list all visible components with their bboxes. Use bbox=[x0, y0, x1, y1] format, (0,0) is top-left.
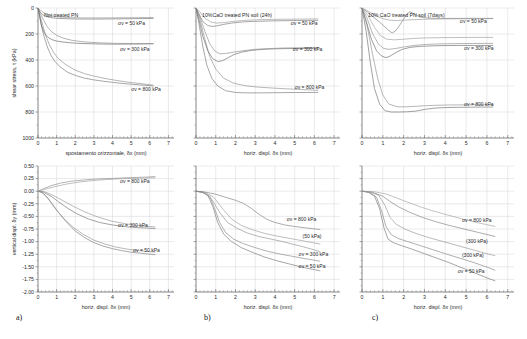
svg-text:2: 2 bbox=[74, 140, 77, 146]
svg-text:-2.00: -2.00 bbox=[22, 289, 34, 295]
curve--v-800-kpa bbox=[362, 191, 495, 236]
y-axis-label: shear stress, τ (kPa) bbox=[11, 48, 17, 97]
svg-text:-0.50: -0.50 bbox=[22, 213, 34, 219]
svg-text:0.50: 0.50 bbox=[24, 163, 34, 169]
panel-c-bottom-chart: 01234567σv = 50 kPa(300 kPa)(300 kPa)σv … bbox=[348, 160, 520, 310]
svg-text:4: 4 bbox=[444, 294, 447, 300]
svg-text:600: 600 bbox=[25, 83, 34, 89]
svg-text:5: 5 bbox=[130, 294, 133, 300]
curve-label: σv = 800 kPa bbox=[131, 86, 161, 92]
panel-c-top-chart: 0123456710% CaO treated PN soil (7days)σ… bbox=[348, 4, 520, 156]
svg-text:1: 1 bbox=[214, 294, 217, 300]
svg-text:4: 4 bbox=[111, 294, 114, 300]
panel-c: 0123456710% CaO treated PN soil (7days)σ… bbox=[348, 4, 520, 156]
svg-text:5: 5 bbox=[293, 140, 296, 146]
svg-text:2: 2 bbox=[74, 294, 77, 300]
svg-text:6: 6 bbox=[313, 140, 316, 146]
svg-text:6: 6 bbox=[485, 140, 488, 146]
svg-text:-1.50: -1.50 bbox=[22, 264, 34, 270]
svg-text:4: 4 bbox=[444, 140, 447, 146]
panel-a-bottom-chart: -2.00-1.75-1.50-1.25-1.00-0.75-0.50-0.25… bbox=[8, 160, 180, 310]
svg-text:6: 6 bbox=[148, 294, 151, 300]
panel-b-top-chart: 0123456710%CaO treated PN soil (24h)σv =… bbox=[182, 4, 346, 156]
panel-a-bottom: -2.00-1.75-1.50-1.25-1.00-0.75-0.50-0.25… bbox=[8, 160, 180, 310]
svg-text:1000: 1000 bbox=[22, 135, 34, 141]
svg-text:3: 3 bbox=[254, 140, 257, 146]
curve-label: σv = 50 kPa bbox=[458, 268, 485, 274]
svg-text:6: 6 bbox=[313, 294, 316, 300]
svg-text:4: 4 bbox=[273, 294, 276, 300]
svg-text:1: 1 bbox=[381, 140, 384, 146]
curve-label: σv = 300 kPa bbox=[118, 222, 148, 228]
svg-text:3: 3 bbox=[254, 294, 257, 300]
svg-text:5: 5 bbox=[465, 294, 468, 300]
svg-text:-0.75: -0.75 bbox=[22, 226, 34, 232]
svg-text:-1.75: -1.75 bbox=[22, 276, 34, 282]
svg-text:1: 1 bbox=[55, 140, 58, 146]
svg-text:5: 5 bbox=[465, 140, 468, 146]
curve--v-50-kpa bbox=[196, 191, 320, 271]
svg-text:3: 3 bbox=[423, 294, 426, 300]
curve-label: σv = 800 kPa bbox=[120, 178, 150, 184]
svg-text:7: 7 bbox=[167, 140, 170, 146]
panel-a-top-chart: 0200400600800100001234567Not treated PNσ… bbox=[8, 4, 180, 156]
svg-text:400: 400 bbox=[25, 57, 34, 63]
curve-label: σv = 800 kPa bbox=[462, 217, 492, 223]
panel-letter-a: a) bbox=[16, 313, 22, 322]
svg-text:0.25: 0.25 bbox=[24, 175, 34, 181]
panel-b: 0123456710%CaO treated PN soil (24h)σv =… bbox=[182, 4, 346, 156]
svg-text:200: 200 bbox=[25, 31, 34, 37]
svg-text:800: 800 bbox=[25, 109, 34, 115]
svg-text:0.00: 0.00 bbox=[24, 188, 34, 194]
svg-text:0: 0 bbox=[361, 140, 364, 146]
svg-text:0: 0 bbox=[37, 294, 40, 300]
svg-text:2: 2 bbox=[402, 140, 405, 146]
svg-text:4: 4 bbox=[273, 140, 276, 146]
svg-text:-1.00: -1.00 bbox=[22, 238, 34, 244]
svg-text:0: 0 bbox=[31, 5, 34, 11]
svg-text:0: 0 bbox=[361, 294, 364, 300]
svg-text:-0.25: -0.25 bbox=[22, 201, 34, 207]
curve-label: σv = 50 kPa bbox=[460, 18, 487, 24]
svg-text:2: 2 bbox=[234, 294, 237, 300]
svg-text:7: 7 bbox=[506, 140, 509, 146]
curve--300-kpa- bbox=[362, 191, 495, 270]
svg-text:6: 6 bbox=[485, 294, 488, 300]
curve-label: (50 kPa) bbox=[303, 233, 322, 239]
figure-root: 0200400600800100001234567Not treated PNσ… bbox=[0, 0, 527, 339]
svg-text:-1.25: -1.25 bbox=[22, 251, 34, 257]
curve-label: σv = 800 kPa bbox=[287, 216, 317, 222]
svg-text:6: 6 bbox=[148, 140, 151, 146]
curve-label: σv = 300 kPa bbox=[299, 251, 329, 257]
x-axis-label: horiz. displ. δx (mm) bbox=[414, 150, 463, 156]
svg-text:1: 1 bbox=[214, 140, 217, 146]
curve-label: σv = 800 kPa bbox=[295, 84, 325, 90]
svg-text:7: 7 bbox=[333, 140, 336, 146]
y-axis-label: vertical displ. δy (mm) bbox=[11, 203, 17, 256]
panel-title: 10% CaO treated PN soil (7days) bbox=[368, 12, 445, 18]
svg-text:2: 2 bbox=[234, 140, 237, 146]
x-axis-label: spostamento orizzontale, δx (mm) bbox=[65, 150, 146, 156]
curve-label: σv = 50 kPa bbox=[299, 263, 326, 269]
curve-label: σv = 300 kPa bbox=[293, 46, 323, 52]
svg-text:1: 1 bbox=[55, 294, 58, 300]
curve-label: σv = 800 kPa bbox=[464, 101, 494, 107]
svg-text:5: 5 bbox=[130, 140, 133, 146]
curve-label: σv = 300 kPa bbox=[120, 46, 150, 52]
x-axis-label: horiz. displ. δx (mm) bbox=[82, 304, 131, 310]
x-axis-label: horiz. displ. δx (mm) bbox=[244, 304, 293, 310]
svg-text:7: 7 bbox=[506, 294, 509, 300]
svg-text:0: 0 bbox=[195, 294, 198, 300]
curve--300-kpa-b bbox=[362, 191, 495, 256]
x-axis-label: horiz. displ. δx (mm) bbox=[244, 150, 293, 156]
panel-a: 0200400600800100001234567Not treated PNσ… bbox=[8, 4, 180, 156]
curve-label: σv = 50 kPa bbox=[118, 20, 145, 26]
panel-title: Not treated PN bbox=[44, 12, 79, 18]
curve-label: σv = 50 kPa bbox=[291, 20, 318, 26]
panel-title: 10%CaO treated PN soil (24h) bbox=[202, 12, 272, 18]
curve-label: (300 kPa) bbox=[462, 252, 484, 258]
curve--v-800-kpa bbox=[196, 191, 320, 229]
svg-text:1: 1 bbox=[381, 294, 384, 300]
panel-letter-b: b) bbox=[204, 313, 211, 322]
panel-c-bottom: 01234567σv = 50 kPa(300 kPa)(300 kPa)σv … bbox=[348, 160, 520, 310]
